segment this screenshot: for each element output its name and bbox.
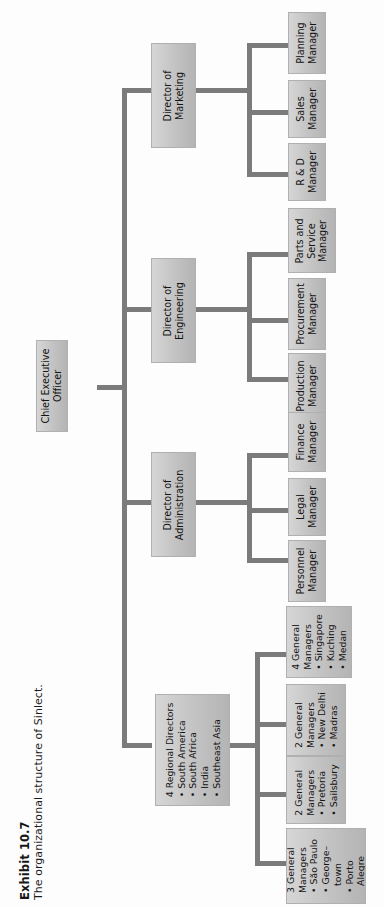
connector-administration-to-spine xyxy=(196,500,248,505)
connector-marketing-sales xyxy=(247,110,289,115)
node-general-managers-southeast-asia[interactable]: 4 General Managers • Singapore • Kuching… xyxy=(286,606,352,678)
node-sales-manager[interactable]: SalesManager xyxy=(288,80,326,138)
connector-trunk-administration xyxy=(122,500,152,505)
exhibit-description: The organizational structure of Sinlect. xyxy=(32,684,46,900)
node-label: Chief ExecutiveOfficer xyxy=(40,349,63,424)
connector-engineering-to-spine xyxy=(196,307,248,312)
connector-regional-gm-sea xyxy=(255,652,287,657)
connector-regional-gm-samerica xyxy=(255,861,287,866)
node-label: PersonnelManager xyxy=(295,547,318,594)
connector-marketing-rd xyxy=(247,172,289,177)
node-general-managers-south-america[interactable]: 3 General Managers • São Paulo • George–… xyxy=(286,828,366,904)
node-label: Director ofEngineering xyxy=(162,282,185,340)
connector-engineering-parts xyxy=(247,252,289,257)
node-label: 2 General Managers • New Delhi • Madras xyxy=(293,692,340,748)
node-procurement-manager[interactable]: ProcurementManager xyxy=(288,278,326,350)
node-label: 2 General Managers • Pretoria • Sailsbur… xyxy=(293,764,340,815)
node-regional-directors[interactable]: 4 Regional Directors • South America • S… xyxy=(155,694,230,806)
connector-main-trunk xyxy=(122,88,127,748)
node-label: R & DManager xyxy=(295,151,318,193)
node-general-managers-south-africa[interactable]: 2 General Managers • Pretoria • Sailsbur… xyxy=(286,756,346,824)
node-rd-manager[interactable]: R & DManager xyxy=(288,143,326,201)
connector-engineering-procurement xyxy=(247,318,289,323)
connector-trunk-engineering xyxy=(122,307,152,312)
connector-engineering-production xyxy=(247,377,289,382)
node-label: SalesManager xyxy=(295,88,318,130)
connector-engineering-spine xyxy=(247,252,252,382)
node-parts-and-service-manager[interactable]: Parts andServiceManager xyxy=(288,208,336,273)
connector-ceo-to-trunk xyxy=(97,385,125,390)
connector-regional-to-spine xyxy=(230,743,258,748)
node-director-of-administration[interactable]: Director ofAdministration xyxy=(151,452,196,557)
connector-regional-gm-india xyxy=(255,722,287,727)
connector-regional-spine xyxy=(255,652,260,866)
connector-marketing-planning xyxy=(247,43,289,48)
node-label: 3 General Managers • São Paulo • George–… xyxy=(286,839,366,893)
node-planning-manager[interactable]: PlanningManager xyxy=(288,12,326,74)
node-personnel-manager[interactable]: PersonnelManager xyxy=(288,540,326,602)
node-finance-manager[interactable]: FinanceManager xyxy=(288,412,326,472)
node-label: Director ofAdministration xyxy=(162,469,185,539)
exhibit-caption: Exhibit 10.7 The organizational structur… xyxy=(2,600,46,900)
connector-marketing-to-spine xyxy=(196,88,248,93)
node-director-of-engineering[interactable]: Director ofEngineering xyxy=(151,258,196,363)
node-label: Parts andServiceManager xyxy=(294,218,329,263)
node-label: LegalManager xyxy=(295,486,318,528)
connector-trunk-marketing xyxy=(122,88,152,93)
node-label: FinanceManager xyxy=(295,421,318,463)
node-chief-executive-officer[interactable]: Chief ExecutiveOfficer xyxy=(36,340,68,432)
node-director-of-marketing[interactable]: Director ofMarketing xyxy=(151,43,196,148)
connector-trunk-regional xyxy=(122,743,152,748)
node-production-manager[interactable]: ProductionManager xyxy=(288,353,326,419)
node-label: 4 General Managers • Singapore • Kuching… xyxy=(290,614,349,670)
node-general-managers-india[interactable]: 2 General Managers • New Delhi • Madras xyxy=(286,684,346,756)
connector-administration-finance xyxy=(247,453,289,458)
connector-administration-legal xyxy=(247,508,289,513)
connector-administration-personnel xyxy=(247,558,289,563)
node-label: PlanningManager xyxy=(295,22,318,64)
exhibit-number: Exhibit 10.7 xyxy=(18,821,32,900)
node-label: 4 Regional Directors • South America • S… xyxy=(163,703,222,798)
connector-regional-gm-sa xyxy=(255,792,287,797)
node-label: Director ofMarketing xyxy=(162,70,185,121)
node-label: ProductionManager xyxy=(295,360,318,411)
node-label: ProcurementManager xyxy=(295,283,318,345)
node-legal-manager[interactable]: LegalManager xyxy=(288,478,326,536)
